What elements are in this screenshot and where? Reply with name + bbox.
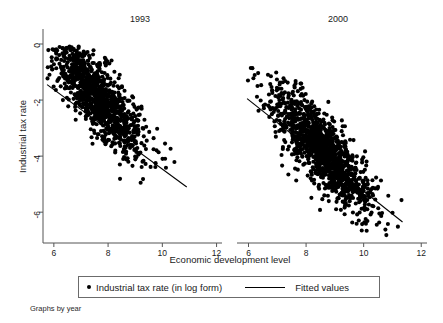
scatter-point bbox=[358, 194, 362, 198]
scatter-point bbox=[314, 128, 318, 132]
scatter-point bbox=[121, 113, 125, 117]
scatter-point bbox=[57, 53, 61, 57]
scatter-point bbox=[343, 212, 347, 216]
scatter-point bbox=[309, 125, 313, 129]
scatter-point bbox=[275, 77, 279, 81]
scatter-point bbox=[343, 194, 347, 198]
scatter-point bbox=[301, 135, 305, 139]
scatter-point bbox=[293, 167, 297, 171]
scatter-point bbox=[140, 165, 144, 169]
scatter-point bbox=[306, 137, 310, 141]
scatter-point bbox=[117, 93, 121, 97]
scatter-point bbox=[76, 86, 80, 90]
scatter-point bbox=[149, 165, 153, 169]
scatter-point bbox=[141, 159, 145, 163]
scatter-point bbox=[350, 220, 354, 224]
scatter-point bbox=[163, 142, 167, 146]
scatter-point bbox=[355, 212, 359, 216]
scatter-point bbox=[70, 66, 74, 70]
scatter-point bbox=[317, 183, 321, 187]
scatter-point bbox=[370, 204, 374, 208]
scatter-point bbox=[259, 83, 263, 87]
scatter-point bbox=[80, 80, 84, 84]
scatter-point bbox=[327, 199, 331, 203]
scatter-point bbox=[81, 72, 85, 76]
scatter-point bbox=[294, 158, 298, 162]
scatter-point bbox=[360, 160, 364, 164]
scatter-point bbox=[106, 76, 110, 80]
scatter-point bbox=[91, 48, 95, 52]
scatter-point bbox=[332, 120, 336, 124]
scatter-point bbox=[360, 207, 364, 211]
scatter-point bbox=[289, 99, 293, 103]
scatter-point bbox=[360, 222, 364, 226]
scatter-point bbox=[115, 109, 119, 113]
scatter-point bbox=[316, 172, 320, 176]
scatter-point bbox=[130, 138, 134, 142]
scatter-point bbox=[386, 222, 390, 226]
scatter-point bbox=[350, 165, 354, 169]
scatter-point bbox=[293, 124, 297, 128]
scatter-point bbox=[334, 148, 338, 152]
scatter-point bbox=[317, 187, 321, 191]
scatter-point bbox=[298, 81, 302, 85]
scatter-point bbox=[321, 181, 325, 185]
scatter-point bbox=[46, 65, 50, 69]
scatter-point bbox=[139, 105, 143, 109]
scatter-point bbox=[301, 94, 305, 98]
legend-dot-icon bbox=[87, 285, 91, 289]
scatter-point bbox=[293, 85, 297, 89]
scatter-point bbox=[127, 99, 131, 103]
scatter-point bbox=[89, 127, 93, 131]
scatter-point bbox=[328, 122, 332, 126]
scatter-point bbox=[350, 153, 354, 157]
scatter-point bbox=[339, 208, 343, 212]
legend-item-fitted: Fitted values bbox=[245, 282, 349, 293]
scatter-point bbox=[117, 131, 121, 135]
scatter-point bbox=[72, 70, 76, 74]
scatter-point bbox=[313, 115, 317, 119]
scatter-point bbox=[92, 108, 96, 112]
scatter-point bbox=[317, 111, 321, 115]
scatter-point bbox=[306, 157, 310, 161]
scatter-point bbox=[309, 113, 313, 117]
scatter-point bbox=[96, 132, 100, 136]
scatter-point bbox=[96, 101, 100, 105]
x-tick-label: 8 bbox=[296, 248, 316, 258]
scatter-point bbox=[100, 81, 104, 85]
scatter-point bbox=[399, 198, 403, 202]
scatter-point bbox=[324, 168, 328, 172]
scatter-point bbox=[309, 171, 313, 175]
scatter-point bbox=[286, 81, 290, 85]
scatter-point bbox=[66, 104, 70, 108]
scatter-point bbox=[347, 204, 351, 208]
footer-note: Graphs by year bbox=[30, 304, 81, 313]
scatter-point bbox=[288, 123, 292, 127]
scatter-point bbox=[266, 104, 270, 108]
scatter-point bbox=[67, 80, 71, 84]
scatter-point bbox=[339, 149, 343, 153]
scatter-point bbox=[145, 139, 149, 143]
scatter-point bbox=[106, 138, 110, 142]
scatter-point bbox=[331, 158, 335, 162]
scatter-point bbox=[374, 176, 378, 180]
scatter-point bbox=[130, 94, 134, 98]
scatter-point bbox=[309, 131, 313, 135]
scatter-point bbox=[54, 56, 58, 60]
scatter-point bbox=[119, 118, 123, 122]
scatter-point bbox=[123, 96, 127, 100]
scatter-point bbox=[99, 112, 103, 116]
scatter-point bbox=[383, 228, 387, 232]
scatter-point bbox=[273, 124, 277, 128]
scatter-point bbox=[326, 100, 330, 104]
scatter-point bbox=[85, 98, 89, 102]
scatter-point bbox=[152, 136, 156, 140]
scatter-point bbox=[147, 130, 151, 134]
scatter-point bbox=[85, 75, 89, 79]
scatter-point bbox=[87, 62, 91, 66]
scatter-point bbox=[295, 112, 299, 116]
scatter-point bbox=[107, 114, 111, 118]
scatter-point bbox=[267, 92, 271, 96]
scatter-point bbox=[340, 159, 344, 163]
scatter-point bbox=[362, 197, 366, 201]
